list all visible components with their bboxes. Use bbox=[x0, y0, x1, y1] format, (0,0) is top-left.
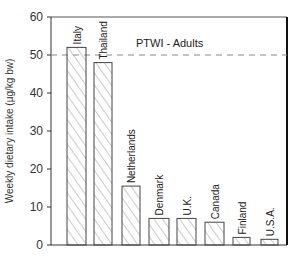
bar-rect bbox=[122, 186, 140, 245]
y-tick-label: 0 bbox=[36, 238, 43, 252]
bar-italy: Italy bbox=[67, 26, 86, 245]
bar-rect bbox=[177, 218, 196, 245]
category-label: Denmark bbox=[154, 174, 165, 216]
category-label: Finland bbox=[237, 202, 248, 235]
y-axis-label: Weekly dietary intake (μg/kg bw) bbox=[4, 59, 15, 204]
y-tick-label: 10 bbox=[30, 200, 44, 214]
category-label: U.K. bbox=[182, 196, 193, 215]
bar-netherlands: Netherlands bbox=[122, 129, 140, 245]
category-label: Canada bbox=[210, 184, 221, 219]
bar-rect bbox=[233, 237, 250, 245]
bar-usa: U.S.A. bbox=[261, 207, 278, 245]
bar-uk: U.K. bbox=[177, 196, 196, 245]
bar-rect bbox=[94, 63, 112, 245]
category-label: Thailand bbox=[98, 21, 109, 59]
y-ticks: 0102030405060 bbox=[30, 10, 51, 252]
bar-denmark: Denmark bbox=[149, 174, 169, 245]
bar-rect bbox=[149, 218, 169, 245]
bar-rect bbox=[261, 239, 278, 245]
reference-line-label: PTWI - Adults bbox=[136, 37, 204, 49]
bar-chart: 0102030405060 PTWI - Adults ItalyThailan… bbox=[0, 0, 302, 258]
y-tick-label: 60 bbox=[30, 10, 44, 24]
y-tick-label: 20 bbox=[30, 162, 44, 176]
category-label: Netherlands bbox=[126, 129, 137, 183]
y-tick-label: 40 bbox=[30, 86, 44, 100]
bar-canada: Canada bbox=[205, 184, 224, 245]
category-label: U.S.A. bbox=[265, 207, 276, 236]
y-tick-label: 30 bbox=[30, 124, 44, 138]
y-tick-label: 50 bbox=[30, 48, 44, 62]
bar-rect bbox=[67, 47, 86, 245]
bar-finland: Finland bbox=[233, 202, 250, 245]
bar-rect bbox=[205, 222, 224, 245]
category-label: Italy bbox=[72, 26, 83, 44]
